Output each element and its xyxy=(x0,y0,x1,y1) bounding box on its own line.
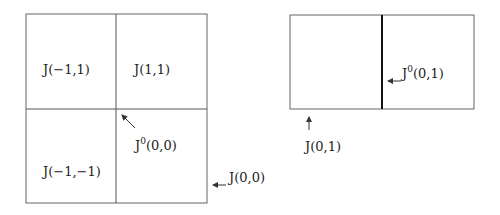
diagram-canvas: J(−1,1) J(1,1) J(−1,−1) J0(0,0) J(0,0) J… xyxy=(0,0,500,215)
right-edge-label: J(0,0) xyxy=(227,170,265,185)
arrow-to-center-icon xyxy=(122,115,135,128)
bottom-edge-label: J(0,1) xyxy=(303,139,341,154)
divider-label: J0(0,1) xyxy=(400,64,444,81)
cell-label-minus1-minus1: J(−1,−1) xyxy=(41,164,101,179)
left-grid: J(−1,1) J(1,1) J(−1,−1) J0(0,0) J(0,0) xyxy=(26,14,265,203)
cell-label-1-1: J(1,1) xyxy=(132,62,170,77)
right-grid: J0(0,1) J(0,1) xyxy=(290,15,474,154)
cell-label-minus1-1: J(−1,1) xyxy=(41,62,90,77)
center-label: J0(0,0) xyxy=(133,136,177,153)
